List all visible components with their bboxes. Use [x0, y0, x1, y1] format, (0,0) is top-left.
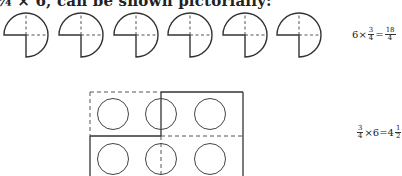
- eq1-times: ×: [358, 29, 366, 40]
- equation-1: 6 × 3 4 = 18 4: [352, 27, 397, 42]
- circle-grid: [90, 92, 243, 176]
- three-quarter-circles-row: [4, 13, 321, 57]
- three-quarter-circle-icon: [168, 13, 212, 57]
- three-quarter-circle-icon: [4, 13, 48, 57]
- eq1-equals: =: [375, 29, 383, 40]
- three-quarter-circle-icon: [223, 13, 267, 57]
- circle-icon: [195, 99, 226, 130]
- eq2-equals: =: [379, 127, 387, 138]
- circle-icon: [195, 144, 226, 175]
- three-quarter-circle-icon: [277, 13, 321, 57]
- circle-icon: [98, 144, 129, 175]
- eq2-fraction-lhs: 3 4: [357, 125, 363, 140]
- three-quarter-circle-icon: [59, 13, 103, 57]
- eq1-fraction-lhs: 3 4: [368, 27, 374, 42]
- eq1-fraction-rhs: 18 4: [385, 27, 396, 42]
- three-quarter-circle-icon: [114, 13, 158, 57]
- equation-2: 3 4 ×6 = 4 1 2: [356, 125, 402, 140]
- eq2-times: ×6: [364, 127, 379, 138]
- circle-icon: [98, 99, 129, 130]
- eq2-fraction-rhs: 1 2: [395, 125, 401, 140]
- eq2-whole: 4: [388, 127, 394, 138]
